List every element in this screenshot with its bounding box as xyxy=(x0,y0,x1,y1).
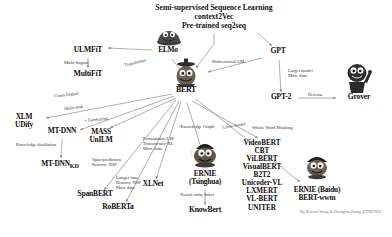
plm-family-tree-diagram: Semi-supervised Sequence Learning contex… xyxy=(0,0,392,237)
node-vl-bert[interactable]: VL-BERT xyxy=(230,195,294,203)
node-gpt2[interactable]: GPT-2 xyxy=(262,93,300,101)
node-bert[interactable]: BERT xyxy=(168,86,204,94)
node-elmo-label: ELMo xyxy=(158,45,178,54)
node-mt-dnn-kd-subscript: KD xyxy=(70,162,79,169)
edge-label-permutation-lm: Permutation LM Transformer-XL More data xyxy=(143,136,174,151)
edge-label-knowledge-graph: +Knowledge Graph xyxy=(178,124,214,129)
node-unilm-label: UnILM xyxy=(80,136,122,144)
node-grover[interactable]: Grover xyxy=(338,93,380,101)
edge-label-bidirectional-lm-line-1: Bidirectional LM xyxy=(212,59,244,64)
edge-label-defense: Defense xyxy=(308,92,323,97)
edge-label-permutation-lm-line-3: More data xyxy=(143,146,174,151)
node-grover-label: Grover xyxy=(348,92,370,101)
edge-label-whole-word-masking-line-1: Whole Word Masking xyxy=(252,125,293,130)
node-spanbert[interactable]: SpanBERT xyxy=(66,190,124,198)
node-knowbert[interactable]: KnowBert xyxy=(178,206,232,214)
node-vilbert[interactable]: ViLBERT xyxy=(230,155,294,163)
node-ulmfit[interactable]: ULMFiT xyxy=(64,46,112,54)
node-b2t2[interactable]: B2T2 xyxy=(230,171,294,179)
node-knowbert-label: KnowBert xyxy=(189,205,221,214)
node-mt-dnn-label: MT-DNN xyxy=(48,126,77,135)
node-mt-dnn[interactable]: MT-DNN xyxy=(38,127,86,135)
node-gpt[interactable]: GPT xyxy=(260,47,296,55)
ernie-tsinghua-sprite xyxy=(190,140,220,168)
edge-label-whole-word-masking: Whole Word Masking xyxy=(252,125,293,130)
node-elmo[interactable]: ELMo xyxy=(150,46,186,54)
edge-label-bidirectional-lm: Bidirectional LM xyxy=(212,59,244,64)
edge-label-longer-time: Longer time Remove NSP More data xyxy=(116,175,141,190)
node-unicoder-vl[interactable]: Unicoder-VL xyxy=(230,179,294,187)
node-gpt2-label: GPT-2 xyxy=(271,92,291,101)
node-mass-unilm[interactable]: MASS UnILM xyxy=(80,128,122,144)
edge-label-larger-model: Larger model More data xyxy=(288,68,313,78)
node-multifit[interactable]: MultiFiT xyxy=(64,70,112,78)
bert-sprite xyxy=(172,58,200,88)
node-spanbert-label: SpanBERT xyxy=(77,189,112,198)
node-visualbert[interactable]: VisualBERT xyxy=(230,163,294,171)
vl-model-stack[interactable]: VideoBERT CBT ViLBERT VisualBERT B2T2 Un… xyxy=(230,139,294,212)
edge-label-longer-time-line-3: More data xyxy=(116,185,141,190)
edge-label-span-prediction-line-2: Remove NSP xyxy=(92,162,121,167)
node-uniter[interactable]: UNITER xyxy=(230,204,294,212)
node-bert-label: BERT xyxy=(176,85,196,94)
node-roberta-label: RoBERTa xyxy=(102,202,133,211)
grover-sprite xyxy=(342,62,372,94)
node-udify-label: UDify xyxy=(6,121,42,129)
edge-label-defense-line-1: Defense xyxy=(308,92,323,97)
node-videobert[interactable]: VideoBERT xyxy=(230,139,294,147)
edge-label-span-prediction: Span prediction Remove NSP xyxy=(92,157,121,167)
edge-label-knowledge-graph-line-1: +Knowledge Graph xyxy=(178,124,214,129)
edge-label-neural-entity-linker-line-1: Neural entity linker xyxy=(180,193,214,198)
node-ernie-tsinghua-sublabel: (Tsinghua) xyxy=(180,178,230,186)
node-ernie-tsinghua[interactable]: ERNIE (Tsinghua) xyxy=(180,170,230,186)
node-lxmert[interactable]: LXMERT xyxy=(230,187,294,195)
node-ulmfit-label: ULMFiT xyxy=(74,45,102,54)
edge-label-neural-entity-linker: Neural entity linker xyxy=(180,193,214,198)
node-xlm-udify[interactable]: XLM UDify xyxy=(6,113,42,129)
edge-label-knowledge-distillation: Knowledge distillation xyxy=(16,143,56,148)
node-multifit-label: MultiFiT xyxy=(74,69,102,78)
elmo-sprite xyxy=(156,24,182,46)
node-xlnet-label: XLNet xyxy=(143,179,163,188)
node-gpt-label: GPT xyxy=(270,46,285,55)
node-roberta[interactable]: RoBERTa xyxy=(92,203,144,211)
node-mt-dnn-kd-label: MT-DNN xyxy=(41,159,70,168)
edge-label-multi-lingual-line-1: Multi-lingual xyxy=(64,60,89,65)
edge-label-larger-model-line-2: More data xyxy=(288,73,313,78)
edge-label-knowledge-distillation-line-1: Knowledge distillation xyxy=(16,143,56,148)
credit-text: By Xiaozhi Wang & Zhengyan Zhang @THUNLP xyxy=(300,209,381,214)
ernie-baidu-sprite xyxy=(303,152,331,180)
node-mt-dnn-kd[interactable]: MT-DNNKD xyxy=(34,160,86,170)
node-cbt[interactable]: CBT xyxy=(230,147,294,155)
edge-label-multi-lingual: Multi-lingual xyxy=(64,60,89,65)
